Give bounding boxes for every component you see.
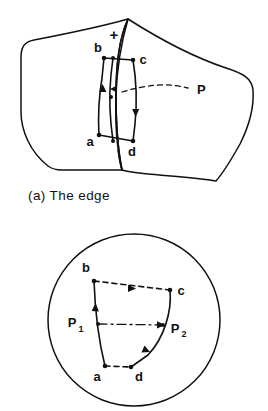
axis-label-p1-subscript: 1 — [78, 324, 83, 334]
vertex-label-b: b — [94, 40, 102, 55]
axis-label-p2-subscript: 2 — [181, 329, 186, 339]
loop-segment-b-to-c — [104, 58, 133, 60]
sign-plus-label: + — [110, 26, 119, 43]
circle-vertex-label-c: c — [177, 283, 184, 298]
circle-arrow-head-c-to-d — [142, 346, 151, 353]
node-dot-a — [97, 133, 102, 138]
node-dot-interior-bottom — [111, 139, 115, 143]
arrow-head-interior-rail — [110, 86, 117, 93]
circle-vertex-label-d: d — [135, 369, 143, 384]
arrow-head-c-to-d — [132, 109, 139, 117]
node-dot-interior-mid — [109, 95, 113, 99]
circle-loop-segment-a-to-d — [105, 366, 131, 367]
axis-label-p2: P 2 — [171, 321, 187, 339]
node-dot-c — [131, 58, 136, 63]
vertex-label-d: d — [128, 144, 136, 159]
axis-line-p1-p2 — [98, 324, 163, 325]
circle-vertex-label-a: a — [93, 369, 101, 384]
axis-label-p1: P 1 — [68, 315, 84, 334]
circle-node-dot-d — [129, 365, 134, 370]
panel-b-circle-diagram: b c a d P 1 P 2 — [48, 234, 220, 406]
axis-node-dot-p2 — [161, 323, 165, 327]
vertex-label-c: c — [139, 52, 146, 67]
figure-canvas: + b c a — [0, 0, 268, 411]
edge-crease-lower-tail — [118, 150, 122, 170]
loop-segment-a-to-b — [99, 58, 104, 135]
axis-label-p1-base: P — [68, 315, 77, 330]
circle-node-dot-b — [92, 279, 97, 284]
node-dot-d — [131, 139, 136, 144]
point-label-p: P — [197, 82, 206, 97]
circle-vertex-label-b: b — [82, 260, 90, 275]
node-dot-b — [102, 56, 107, 61]
circle-node-dot-a — [103, 364, 108, 369]
leader-line-to-p — [122, 85, 188, 92]
circle-arrow-head-a-to-b — [92, 303, 99, 312]
axis-label-p2-base: P — [171, 321, 180, 336]
node-dot-interior-top — [111, 56, 115, 60]
panel-a-caption: (a) The edge — [28, 188, 110, 203]
axis-node-dot-p1 — [96, 322, 100, 326]
circle-node-dot-c — [168, 288, 173, 293]
loop-interior-rail — [110, 58, 113, 141]
panel-a-edge-diagram: + b c a — [21, 19, 253, 203]
figure-root: + b c a — [0, 0, 268, 411]
vertex-label-a: a — [86, 134, 94, 149]
loop-segment-c-to-d — [133, 60, 136, 141]
circle-loop-segment-c-to-d — [131, 290, 170, 367]
